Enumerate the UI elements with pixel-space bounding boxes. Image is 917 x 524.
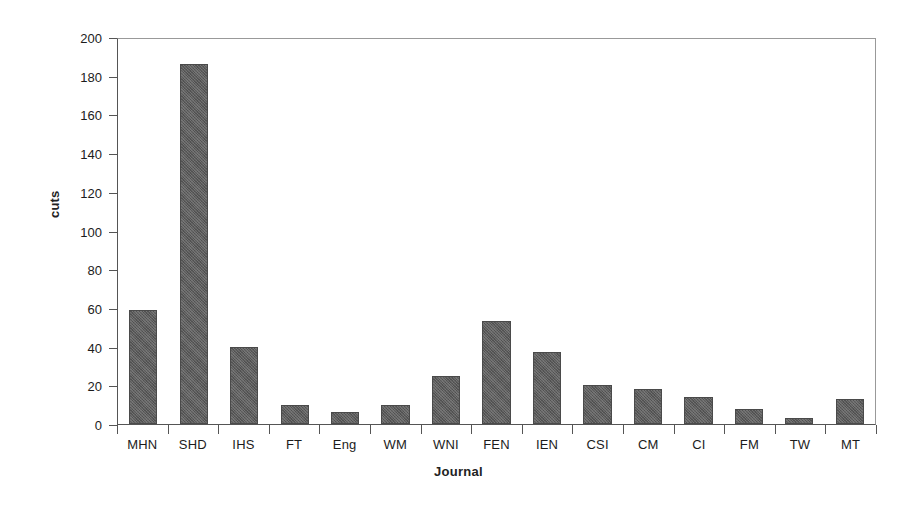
- bar-slot: [269, 39, 319, 424]
- bar-wm: [381, 405, 409, 424]
- x-tick-mark: [674, 425, 675, 434]
- y-tick-label: 200: [56, 31, 102, 46]
- x-axis-tick-labels: MHNSHDIHSFTEngWMWNIFENIENCSICMCIFMTWMT: [117, 437, 876, 452]
- bar-slot: [118, 39, 168, 424]
- x-tick-label-ft: FT: [269, 437, 320, 452]
- bar-eng: [331, 412, 359, 424]
- x-tick-label-wm: WM: [370, 437, 421, 452]
- x-tick-mark: [775, 425, 776, 434]
- x-tick-label-shd: SHD: [168, 437, 219, 452]
- x-tick-mark: [724, 425, 725, 434]
- bar-slot: [168, 39, 218, 424]
- bar-wni: [432, 376, 460, 424]
- x-tick-mark: [168, 425, 169, 434]
- x-tick-label-mt: MT: [825, 437, 876, 452]
- bar-ihs: [230, 347, 258, 424]
- bar-ci: [684, 397, 712, 424]
- x-tick-mark: [522, 425, 523, 434]
- bar-tw: [785, 418, 813, 424]
- x-axis-label: Journal: [0, 464, 917, 479]
- x-tick-mark: [370, 425, 371, 434]
- bar-mt: [836, 399, 864, 424]
- x-tick-mark: [623, 425, 624, 434]
- bar-cm: [634, 389, 662, 424]
- x-tick-label-eng: Eng: [319, 437, 370, 452]
- x-tick-mark: [572, 425, 573, 434]
- y-tick-label: 80: [56, 263, 102, 278]
- bar-fen: [482, 321, 510, 424]
- y-tick-label: 60: [56, 301, 102, 316]
- x-tick-label-tw: TW: [775, 437, 826, 452]
- y-tick-label: 20: [56, 379, 102, 394]
- x-tick-mark: [421, 425, 422, 434]
- y-tick-label: 160: [56, 108, 102, 123]
- x-tick-mark: [319, 425, 320, 434]
- x-tick-mark: [825, 425, 826, 434]
- bar-ien: [533, 352, 561, 424]
- x-tick-label-csi: CSI: [572, 437, 623, 452]
- x-tick-mark: [471, 425, 472, 434]
- bar-slot: [572, 39, 622, 424]
- bar-slot: [522, 39, 572, 424]
- bar-slot: [623, 39, 673, 424]
- bar-chart-figure: cuts 020406080100120140160180200 MHNSHDI…: [0, 0, 917, 524]
- x-tick-label-fen: FEN: [471, 437, 522, 452]
- bar-slot: [673, 39, 723, 424]
- bar-slot: [724, 39, 774, 424]
- y-tick-label: 0: [56, 418, 102, 433]
- y-tick-label: 100: [56, 224, 102, 239]
- bar-slot: [421, 39, 471, 424]
- x-tick-label-mhn: MHN: [117, 437, 168, 452]
- x-tick-label-wni: WNI: [421, 437, 472, 452]
- bar-shd: [180, 64, 208, 424]
- y-tick-label: 40: [56, 340, 102, 355]
- bar-slot: [320, 39, 370, 424]
- bar-series: [118, 39, 875, 424]
- bar-mhn: [129, 310, 157, 424]
- x-tick-label-cm: CM: [623, 437, 674, 452]
- x-tick-mark: [117, 425, 118, 434]
- y-tick-label: 140: [56, 147, 102, 162]
- bar-fm: [735, 409, 763, 425]
- y-tick-label: 180: [56, 69, 102, 84]
- x-tick-mark: [876, 425, 877, 434]
- x-tick-label-fm: FM: [724, 437, 775, 452]
- bar-slot: [471, 39, 521, 424]
- bar-csi: [583, 385, 611, 424]
- y-tick-label: 120: [56, 185, 102, 200]
- x-tick-label-ihs: IHS: [218, 437, 269, 452]
- x-tick-label-ci: CI: [674, 437, 725, 452]
- bar-slot: [774, 39, 824, 424]
- plot-area: [117, 38, 876, 425]
- bar-ft: [281, 405, 309, 424]
- x-tick-mark: [218, 425, 219, 434]
- x-tick-label-ien: IEN: [522, 437, 573, 452]
- bar-slot: [219, 39, 269, 424]
- bar-slot: [825, 39, 875, 424]
- bar-slot: [370, 39, 420, 424]
- x-tick-mark: [269, 425, 270, 434]
